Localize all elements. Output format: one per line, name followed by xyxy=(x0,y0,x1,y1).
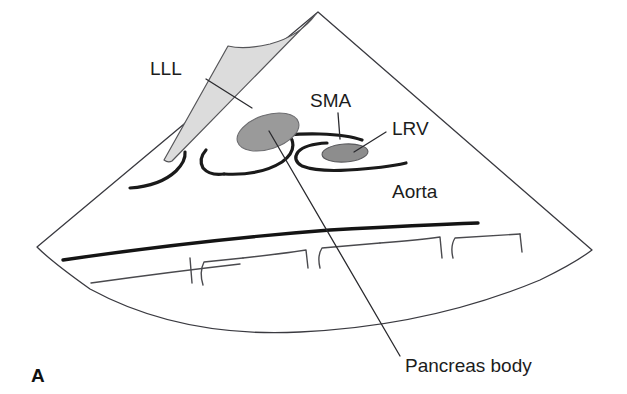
lrv-shape xyxy=(321,142,368,163)
sector-outline xyxy=(37,12,592,333)
leader-line-group xyxy=(206,79,400,356)
vertebra-bracket-3 xyxy=(380,237,442,258)
vertebra-bracket-2b xyxy=(319,243,380,268)
vertebra-bracket-1 xyxy=(190,258,192,283)
label-group: LLL SMA LRV Aorta Pancreas body A xyxy=(31,58,532,386)
ultrasound-schematic-figure: LLL SMA LRV Aorta Pancreas body A xyxy=(0,0,627,394)
vertebra-bracket-2 xyxy=(243,250,308,268)
lrv-ellipse xyxy=(321,142,368,163)
figure-canvas: LLL SMA LRV Aorta Pancreas body A xyxy=(0,0,627,394)
spine-group xyxy=(91,234,522,285)
spine-anterior-line xyxy=(91,264,240,283)
label-sma: SMA xyxy=(310,90,352,111)
label-aorta: Aorta xyxy=(392,181,438,202)
label-lrv: LRV xyxy=(392,118,429,139)
label-lll: LLL xyxy=(150,58,182,79)
panel-letter: A xyxy=(31,365,45,386)
label-pancreas-body: Pancreas body xyxy=(405,355,532,376)
vertebra-bracket-1b xyxy=(201,258,243,285)
leader-line-lrv xyxy=(354,132,386,152)
vertebra-bracket-4 xyxy=(520,234,522,252)
sector-outline-group xyxy=(37,12,592,333)
vertebra-bracket-3b xyxy=(452,234,520,258)
vessel-second-hook xyxy=(201,150,224,174)
vessel-left-hook xyxy=(130,152,185,188)
